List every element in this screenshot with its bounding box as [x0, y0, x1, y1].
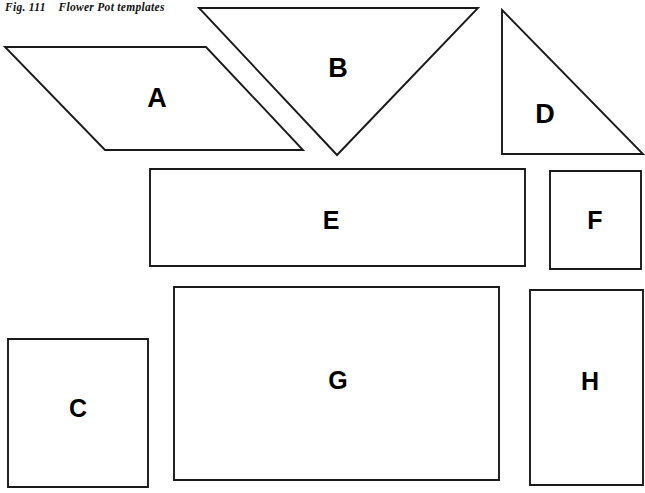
template-label-g: G — [328, 366, 347, 394]
shapes-layer — [5, 8, 643, 487]
templates-diagram: ABDEFCGH — [0, 0, 645, 493]
template-label-a: A — [147, 83, 167, 113]
template-label-e: E — [323, 206, 340, 234]
figure-container: Fig. 111 Flower Pot templates ABDEFCGH — [0, 0, 645, 493]
template-label-f: F — [587, 206, 602, 234]
template-label-h: H — [581, 367, 599, 395]
template-label-c: C — [69, 394, 87, 422]
template-label-b: B — [328, 53, 348, 83]
template-shape-d — [502, 10, 643, 154]
template-label-d: D — [535, 99, 555, 129]
